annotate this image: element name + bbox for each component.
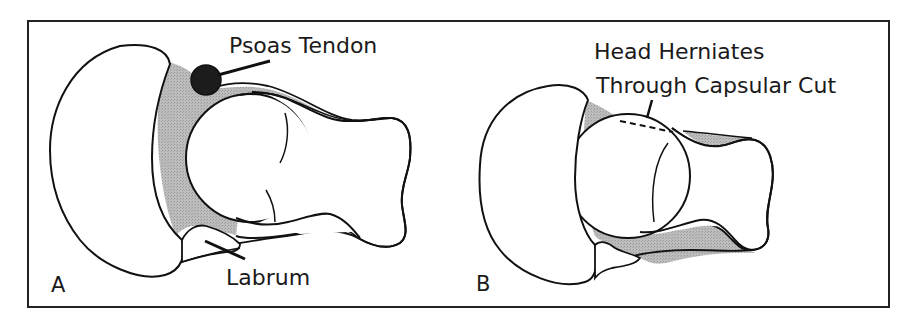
- herniation-label-line1: Head Herniates: [594, 39, 764, 64]
- labrum-label: Labrum: [226, 265, 310, 290]
- diagram-canvas: Psoas Tendon Labrum A: [0, 0, 907, 323]
- psoas-tendon-label: Psoas Tendon: [229, 33, 377, 58]
- panel-letter-a: A: [51, 273, 66, 297]
- herniation-label-line2: Through Capsular Cut: [595, 73, 836, 98]
- panel-letter-b: B: [476, 272, 490, 296]
- hip-diagram-figure: Psoas Tendon Labrum A: [0, 0, 907, 323]
- psoas-tendon: [191, 65, 221, 95]
